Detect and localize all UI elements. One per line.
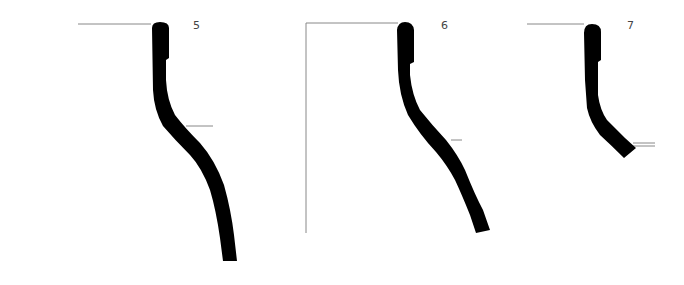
profile-label-6: 6 [441,19,448,32]
profile-label-5: 5 [193,19,200,32]
profile-6 [306,22,490,233]
figure-canvas: 5 6 7 [0,0,684,285]
profiles-svg [0,0,684,285]
profile-5 [78,22,237,261]
profile-7 [527,24,655,158]
sherd-section [397,22,490,233]
sherd-section [584,24,636,158]
profile-label-7: 7 [627,19,634,32]
sherd-section [152,22,237,261]
rim-diameter-line [306,23,398,233]
